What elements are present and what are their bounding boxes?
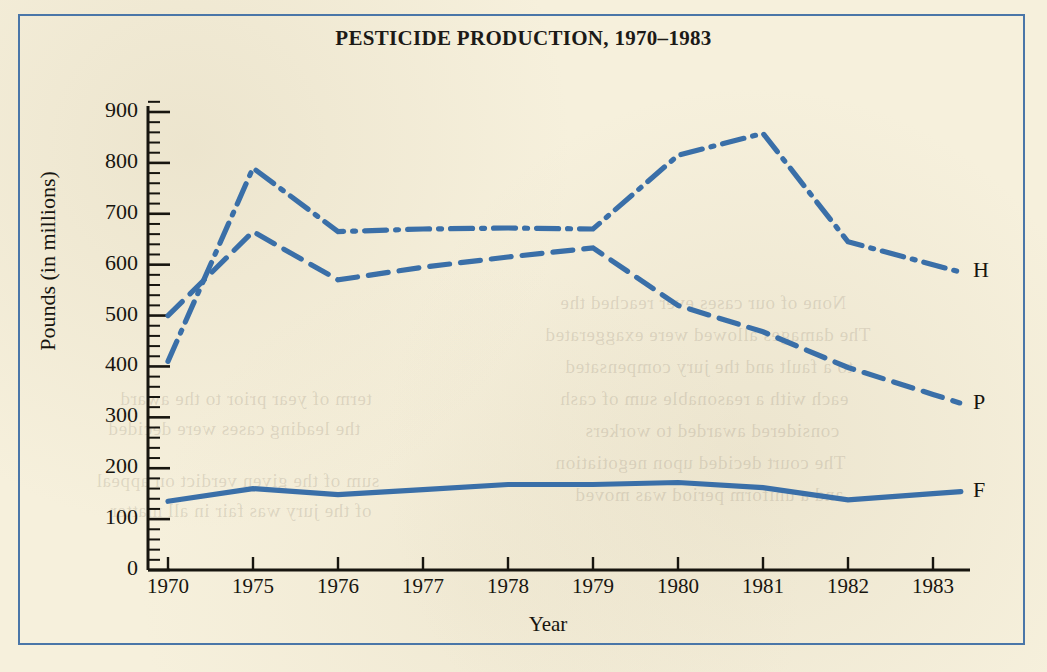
x-tick-label: 1977 (378, 574, 468, 599)
series-label-h: H (973, 257, 989, 283)
y-tick-label: 900 (68, 97, 138, 123)
page-canvas: None of our cases ever reached theThe da… (0, 0, 1047, 672)
plot-area: Pounds (in millions) Year 01002003004005… (0, 0, 1047, 672)
chart-canvas (0, 0, 1047, 672)
y-axis-title: Pounds (in millions) (35, 151, 61, 371)
x-tick-label: 1979 (548, 574, 638, 599)
y-tick-label: 600 (68, 250, 138, 276)
x-tick-label: 1982 (803, 574, 893, 599)
x-tick-label: 1980 (633, 574, 723, 599)
x-tick-label: 1975 (208, 574, 298, 599)
series-line-p (168, 232, 960, 403)
series-group (168, 133, 961, 501)
x-tick-label: 1983 (888, 574, 978, 599)
y-tick-label: 800 (68, 148, 138, 174)
x-tick-label: 1976 (293, 574, 383, 599)
x-tick-label: 1978 (463, 574, 553, 599)
series-label-f: F (973, 477, 985, 503)
series-label-p: P (973, 389, 985, 415)
series-line-f (168, 483, 961, 502)
x-tick-label: 1970 (123, 574, 213, 599)
x-axis-title: Year (148, 612, 948, 637)
y-tick-label: 200 (68, 453, 138, 479)
x-tick-label: 1981 (718, 574, 808, 599)
y-tick-label: 700 (68, 199, 138, 225)
y-tick-label: 300 (68, 402, 138, 428)
y-tick-label: 400 (68, 351, 138, 377)
series-line-h (168, 133, 960, 361)
y-tick-label: 500 (68, 301, 138, 327)
y-tick-label: 100 (68, 504, 138, 530)
